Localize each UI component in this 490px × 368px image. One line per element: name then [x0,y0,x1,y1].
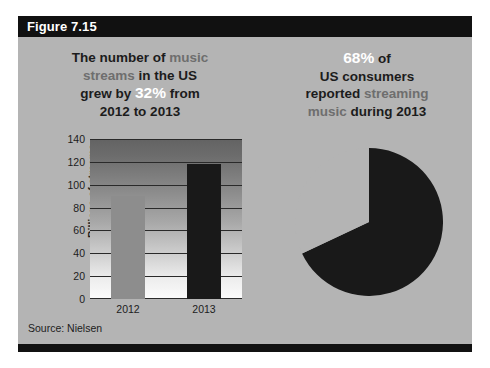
figure-footer-bar [18,344,472,352]
left-panel: The number of music streams in the US gr… [18,37,262,344]
figure-number-label: Figure 7.15 [27,19,97,34]
bar-chart-plot-wrap: 020406080100120140 20122013 [90,139,242,299]
right-headline-seg-6: music [308,104,347,119]
right-headline-line-1: 68% of [270,49,464,68]
left-headline-line-3: grew by 32% from [30,84,250,103]
right-headline-highlight: 68% [343,49,374,66]
x-axis-label-2012: 2012 [116,303,139,315]
left-headline-seg-5: grew by [80,86,135,101]
left-headline-line-4: 2012 to 2013 [30,103,250,121]
y-axis-tick-label: 60 [73,224,85,236]
right-headline-seg-3: US consumers [320,69,415,84]
left-headline-seg-1: The number of [72,50,170,65]
left-headline-seg-2: music [169,50,208,65]
pie-chart [295,148,443,296]
pie-chart-svg [295,148,443,296]
left-headline-seg-3: streams [83,68,135,83]
figure-header-bar: Figure 7.15 [18,16,472,37]
y-axis-tick-label: 20 [73,270,85,282]
right-headline-line-4: music during 2013 [270,103,464,121]
right-headline-seg-4: reported [305,86,364,101]
right-panel: 68% of US consumers reported streaming m… [262,37,472,344]
gridline [90,139,242,140]
y-axis-tick-label: 80 [73,202,85,214]
bar-2013 [187,164,221,299]
left-headline-seg-4: in the US [135,68,197,83]
gridline [90,162,242,163]
y-axis-tick-label: 120 [67,156,85,168]
y-axis-tick-label: 100 [67,179,85,191]
left-headline-highlight: 32% [135,84,166,101]
y-axis-tick-label: 140 [67,133,85,145]
left-headline-line-2: streams in the US [30,67,250,85]
bar-2012 [111,196,145,299]
left-headline-seg-7: 2012 to 2013 [100,104,180,119]
source-note: Source: Nielsen [28,322,102,334]
y-axis-tick-label: 40 [73,247,85,259]
y-axis-tick-label: 0 [79,293,85,305]
right-headline-seg-7: during 2013 [347,104,427,119]
right-headline-line-2: US consumers [270,68,464,86]
x-axis-label-2013: 2013 [192,303,215,315]
left-headline-line-1: The number of music [30,49,250,67]
right-headline: 68% of US consumers reported streaming m… [270,49,464,120]
left-headline: The number of music streams in the US gr… [30,49,250,120]
right-headline-line-3: reported streaming [270,85,464,103]
right-headline-seg-2: of [374,51,391,66]
right-headline-seg-5: streaming [364,86,429,101]
figure-frame: Figure 7.15 The number of music streams … [18,16,472,352]
left-headline-seg-6: from [166,86,200,101]
